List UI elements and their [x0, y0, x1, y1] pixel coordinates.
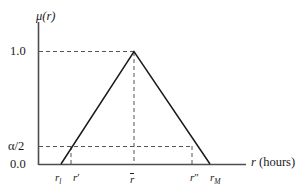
y-axis-title: μ(r) [36, 10, 55, 23]
axes-group [39, 22, 247, 165]
vertical-guide-lines [71, 52, 192, 164]
x-tick-r-upper-subscript: M [214, 177, 220, 186]
x-tick-label-r-double-prime: r″ [190, 172, 199, 183]
x-tick-r-bar-base: r [130, 173, 134, 185]
x-tick-label-r-lower: rl [55, 172, 61, 186]
figure-container: μ(r) 1.0 α/2 0.0 rl r′ r r″ rM r (hours) [0, 0, 297, 195]
x-tick-label-r-bar: r [130, 173, 134, 185]
y-tick-label-alpha-half: α/2 [8, 140, 24, 153]
x-axis-title-unit-text: (hours) [259, 155, 295, 169]
membership-function-curve [61, 52, 210, 165]
x-tick-r-prime-mark: ′ [77, 171, 79, 183]
x-axis-title: r (hours) [251, 156, 295, 169]
y-tick-label-0.0: 0.0 [10, 158, 26, 171]
y-tick-label-1.0: 1.0 [10, 45, 26, 58]
horizontal-guide-lines [39, 52, 192, 147]
x-tick-label-r-prime: r′ [73, 172, 80, 183]
x-tick-label-r-upper: rM [210, 172, 221, 186]
x-tick-r-double-prime-mark: ″ [194, 171, 199, 183]
x-tick-r-lower-subscript: l [59, 177, 61, 186]
